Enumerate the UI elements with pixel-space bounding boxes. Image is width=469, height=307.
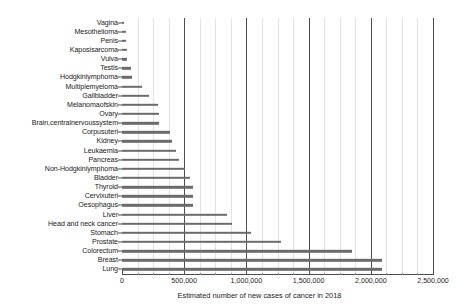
x-axis-minor-tick [402, 273, 403, 275]
chart-row: Multiplemyeloma [0, 82, 469, 91]
bar [122, 250, 352, 252]
category-label: Hodgkinlymphoma [60, 73, 118, 81]
bar [122, 259, 382, 261]
x-axis-minor-tick [200, 273, 201, 275]
bar [122, 195, 193, 197]
chart-row: Head and neck cancer [0, 219, 469, 228]
category-label: Cervixuteri [85, 192, 118, 200]
category-label: Pancreas [88, 156, 118, 164]
x-axis-title-text: Estimated number of new cases of cancer … [178, 291, 342, 300]
category-label: Stomach [90, 229, 118, 237]
category-label: Multiplemyeloma [66, 83, 118, 91]
x-axis-minor-tick [262, 273, 263, 275]
category-label: Bladder [94, 174, 118, 182]
bar [122, 186, 193, 188]
category-label: Kidney [97, 137, 118, 145]
category-label: Testis [100, 64, 118, 72]
x-axis-minor-tick [215, 273, 216, 275]
x-axis-tick [122, 271, 123, 275]
x-axis-minor-tick [169, 273, 170, 275]
bar [122, 85, 142, 87]
category-label: Gallbladder [82, 92, 118, 100]
category-label: Ovary [99, 110, 118, 118]
chart-row: Testis [0, 64, 469, 73]
category-label: Penis [101, 37, 119, 45]
x-axis-tick-label: 2,500,000 [417, 277, 449, 286]
chart-rows: VaginaMesotheliomaPenisKaposisarcomaVulv… [0, 18, 469, 274]
bar [122, 223, 232, 225]
category-label: Breast [98, 256, 118, 264]
bar [122, 40, 126, 42]
bar [122, 140, 172, 142]
bar [122, 177, 190, 179]
bar [122, 122, 159, 124]
chart-row: Colorectum [0, 247, 469, 256]
bar [122, 241, 281, 243]
bar [122, 232, 251, 234]
category-label: Liver [103, 211, 118, 219]
chart-row: Penis [0, 36, 469, 45]
x-axis-minor-tick [417, 273, 418, 275]
x-axis-minor-tick [324, 273, 325, 275]
x-axis-tick-label: 1,500,000 [293, 277, 325, 286]
bar [122, 159, 179, 161]
chart-row: Kaposisarcoma [0, 45, 469, 54]
bar [122, 131, 170, 133]
chart-row: Corpusuteri [0, 128, 469, 137]
bar [122, 268, 382, 270]
bar [122, 168, 185, 170]
bar [122, 95, 149, 97]
x-axis-minor-tick [340, 273, 341, 275]
category-label: Melanomaofskin [67, 101, 118, 109]
x-axis-minor-tick [153, 273, 154, 275]
bar [122, 104, 158, 106]
x-axis-minor-tick [278, 273, 279, 275]
chart-row: Kidney [0, 137, 469, 146]
category-label: Vulva [101, 55, 118, 63]
bar [122, 58, 127, 60]
category-label: Prostate [92, 238, 118, 246]
category-label: Leukaemia [84, 147, 118, 155]
chart-row: Non-Hodgkinlymphoma [0, 164, 469, 173]
bar [122, 204, 193, 206]
chart-row: Gallbladder [0, 91, 469, 100]
bar [122, 49, 127, 51]
bar [122, 21, 124, 23]
chart-row: Brain,centralnervoussystem [0, 119, 469, 128]
bar [122, 31, 126, 33]
x-axis-tick [246, 271, 247, 275]
x-axis-tick-label: 0 [120, 277, 124, 286]
chart-row: Bladder [0, 173, 469, 182]
bar-chart: VaginaMesotheliomaPenisKaposisarcomaVulv… [0, 0, 469, 307]
chart-row: Liver [0, 210, 469, 219]
category-label: Oesophagus [78, 201, 118, 209]
x-axis-tick-label: 1,000,000 [231, 277, 263, 286]
category-label: Corpusuteri [82, 128, 118, 136]
category-label: Head and neck cancer [48, 220, 118, 228]
category-label: Non-Hodgkinlymphoma [45, 165, 118, 173]
x-axis-minor-tick [293, 273, 294, 275]
x-axis-minor-tick [386, 273, 387, 275]
chart-row: Leukaemia [0, 146, 469, 155]
chart-row: Mesothelioma [0, 27, 469, 36]
bar [122, 149, 176, 151]
category-label: Colorectum [82, 247, 118, 255]
chart-row: Stomach [0, 228, 469, 237]
x-axis-minor-tick [138, 273, 139, 275]
chart-row: Melanomaofskin [0, 100, 469, 109]
bar [122, 113, 159, 115]
bar [122, 76, 132, 78]
x-axis-minor-tick [355, 273, 356, 275]
bar [122, 213, 227, 215]
x-axis-title: Estimated number of new cases of cancer … [0, 291, 469, 300]
category-label: Vagina [97, 19, 118, 27]
x-axis-tick [309, 271, 310, 275]
chart-row: Cervixuteri [0, 192, 469, 201]
category-label: Kaposisarcoma [70, 46, 118, 54]
x-axis-tick [371, 271, 372, 275]
x-axis-minor-tick [231, 273, 232, 275]
x-axis-tick [433, 271, 434, 275]
chart-row: Oesophagus [0, 201, 469, 210]
chart-row: Pancreas [0, 155, 469, 164]
chart-row: Lung [0, 265, 469, 274]
